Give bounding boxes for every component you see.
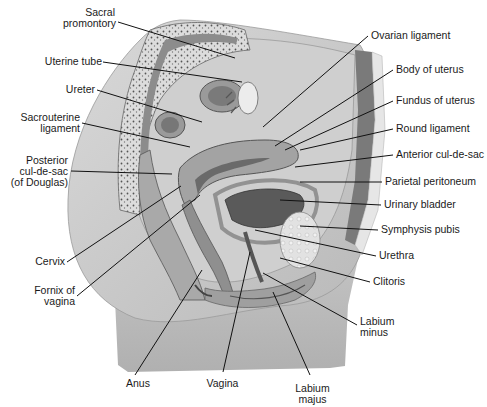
label-labium-minus: Labium minus bbox=[360, 316, 394, 338]
label-anterior-cul-de-sac: Anterior cul-de-sac bbox=[396, 149, 484, 160]
label-fundus-of-uterus: Fundus of uterus bbox=[396, 95, 475, 106]
ovary bbox=[238, 82, 258, 114]
label-urethra: Urethra bbox=[379, 250, 414, 261]
label-uterine-tube: Uterine tube bbox=[40, 56, 102, 67]
pelvis-diagram: Sacral promontory Uterine tube Ureter Sa… bbox=[0, 0, 487, 407]
label-anus: Anus bbox=[118, 378, 158, 389]
label-ovarian-ligament: Ovarian ligament bbox=[371, 30, 450, 41]
label-clitoris: Clitoris bbox=[373, 276, 405, 287]
label-urinary-bladder: Urinary bladder bbox=[384, 199, 456, 210]
label-posterior-cul-de-sac: Posterior cul-de-sac (of Douglas) bbox=[2, 155, 68, 188]
colon-loop-2-lumen bbox=[161, 117, 179, 133]
label-vagina: Vagina bbox=[200, 378, 245, 389]
label-cervix: Cervix bbox=[20, 256, 65, 267]
label-parietal-peritoneum: Parietal peritoneum bbox=[385, 176, 476, 187]
label-body-of-uterus: Body of uterus bbox=[396, 64, 464, 75]
label-ureter: Ureter bbox=[50, 84, 95, 95]
label-sacrouterine-ligament: Sacrouterine ligament bbox=[10, 112, 80, 134]
label-labium-majus: Labium majus bbox=[290, 383, 335, 405]
label-round-ligament: Round ligament bbox=[396, 123, 470, 134]
label-fornix-of-vagina: Fornix of vagina bbox=[20, 285, 75, 307]
colon-loop-1-lumen bbox=[208, 86, 236, 106]
label-sacral-promontory: Sacral promontory bbox=[63, 7, 115, 29]
label-symphysis-pubis: Symphysis pubis bbox=[381, 224, 460, 235]
